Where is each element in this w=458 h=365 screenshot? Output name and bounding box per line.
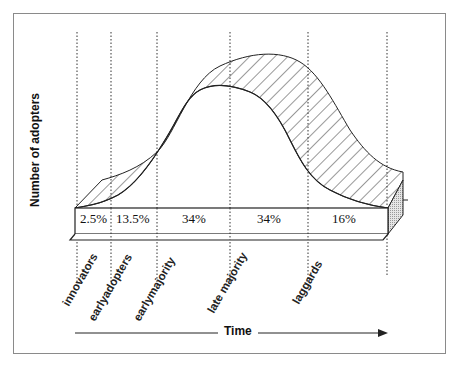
percent-late-majority: 34%	[257, 211, 281, 227]
curve-ribbon	[75, 54, 403, 208]
percent-early-adopters: 13.5%	[116, 211, 150, 227]
y-axis-label: Number of adopters	[28, 93, 42, 207]
percent-early-majority: 34%	[182, 211, 206, 227]
percent-innovators: 2.5%	[80, 211, 107, 227]
time-arrow-icon	[378, 329, 388, 337]
x-axis-label: Time	[218, 324, 258, 338]
adoption-curve-graphic	[0, 0, 458, 365]
percent-laggards: 16%	[332, 211, 356, 227]
